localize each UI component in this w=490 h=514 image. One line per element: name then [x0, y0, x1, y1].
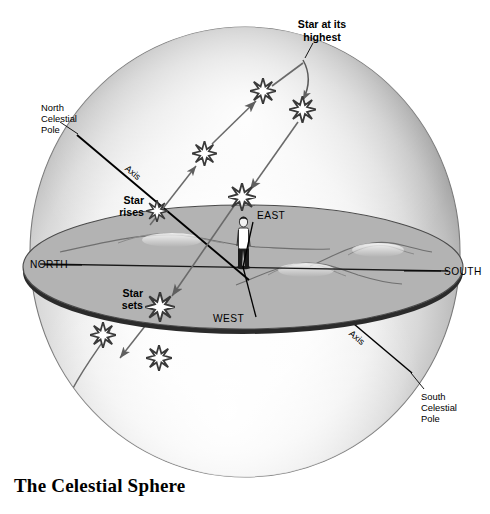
- observer-torso: [239, 228, 249, 249]
- scp-line-2: Celestial: [421, 402, 457, 413]
- star-highest-line-2: highest: [303, 31, 341, 43]
- south-label: SOUTH: [444, 266, 482, 277]
- star-glyph-descending-1: [289, 96, 316, 123]
- scp-line-1: South: [421, 391, 446, 402]
- hill-shade-2: [352, 243, 404, 257]
- star-glyph-below-1: [90, 322, 116, 348]
- star-highest-line-1: Star at its: [298, 18, 346, 30]
- east-label: EAST: [257, 210, 285, 221]
- celestial-sphere-figure: Axis South Celestial Pole South Celestia…: [0, 0, 490, 514]
- ncp-line-1: North: [41, 102, 64, 113]
- star-rises-line-1: Star: [123, 194, 144, 206]
- hill-shade-3: [278, 263, 334, 277]
- celestial-sphere-svg: Axis South Celestial Pole South Celestia…: [0, 0, 490, 514]
- star-sets-line-2: sets: [122, 299, 143, 311]
- ncp-line-3: Pole: [41, 124, 60, 135]
- star-glyph-sets: [145, 292, 175, 322]
- hill-shade-1: [142, 233, 202, 247]
- star-rises-line-2: rises: [119, 206, 144, 218]
- star-glyph-ascending-1: [192, 141, 217, 166]
- south-celestial-pole-label: South Celestial Pole: [421, 391, 457, 424]
- scp-line-3: Pole: [421, 413, 440, 424]
- north-label: NORTH: [30, 259, 68, 270]
- ncp-line-2: Celestial: [41, 113, 77, 124]
- star-glyph-descending-2: [228, 183, 256, 211]
- star-glyph-rises: [146, 200, 168, 222]
- star-glyph-below-2: [146, 345, 172, 371]
- figure-title: The Celestial Sphere: [14, 475, 185, 496]
- west-label: WEST: [213, 313, 244, 324]
- star-sets-line-1: Star: [122, 287, 143, 299]
- star-glyph-ascending-2: [250, 78, 276, 104]
